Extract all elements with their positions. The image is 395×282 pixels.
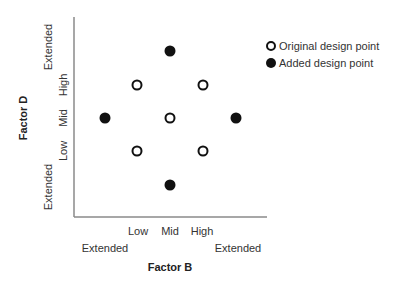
added-point (165, 46, 176, 57)
y-tick-extended-bottom: Extended (42, 164, 54, 210)
original-point (199, 81, 208, 90)
y-tick-mid: Mid (57, 109, 69, 127)
added-point (231, 113, 242, 124)
x-tick-mid: Mid (161, 225, 179, 237)
open-circle-icon (266, 41, 276, 51)
legend-item-original: Original design point (266, 37, 379, 54)
x-tick-high: High (191, 225, 214, 237)
y-axis-title: Factor D (17, 96, 29, 141)
legend: Original design point Added design point (266, 37, 379, 71)
original-point (166, 114, 175, 123)
legend-label-added: Added design point (279, 57, 373, 69)
y-tick-extended-top: Extended (42, 24, 54, 70)
filled-circle-icon (266, 58, 276, 68)
added-point (100, 113, 111, 124)
added-point (165, 180, 176, 191)
legend-label-original: Original design point (279, 40, 379, 52)
y-tick-low: Low (57, 141, 69, 161)
x-axis-title: Factor B (148, 261, 193, 273)
original-point (133, 147, 142, 156)
x-tick-extended-right: Extended (215, 242, 261, 254)
original-point (133, 81, 142, 90)
x-tick-extended-left: Extended (82, 242, 128, 254)
y-tick-high: High (57, 74, 69, 97)
original-point (199, 147, 208, 156)
x-tick-low: Low (128, 225, 148, 237)
legend-item-added: Added design point (266, 54, 379, 71)
